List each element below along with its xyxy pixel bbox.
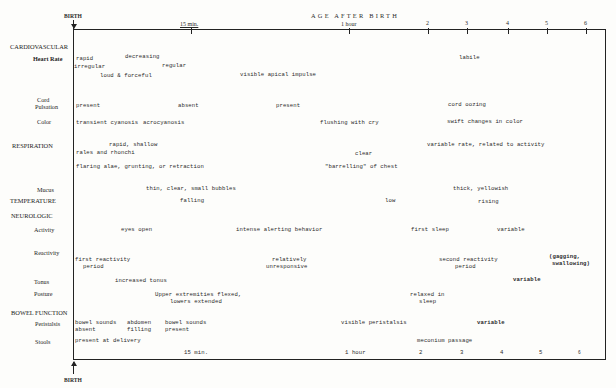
- entry: transient cyanosis: [76, 120, 138, 127]
- bottom-tick-label: 1 hour: [345, 350, 366, 357]
- entry: variable: [513, 277, 541, 284]
- tick-3: [467, 28, 468, 34]
- left-axis-line: [73, 29, 74, 360]
- tick-4: [508, 28, 509, 34]
- top-tick-label: 1 hour: [341, 21, 357, 27]
- row-peristalsis: Peristalsis: [35, 320, 60, 327]
- row-cord: Cord: [37, 96, 49, 103]
- row-heart-rate: Heart Rate: [33, 55, 62, 62]
- top-tick-label: 15 min.: [180, 21, 198, 27]
- section-temperature: TEMPERATURE: [10, 197, 56, 204]
- entry: loud & forceful: [100, 73, 152, 80]
- row-tonus: Tonus: [34, 278, 49, 285]
- entry: clear: [355, 151, 372, 158]
- tick-1hour: [349, 28, 350, 34]
- birth-label-bottom: BIRTH: [64, 377, 82, 383]
- entry: intense alerting behavior: [236, 227, 322, 234]
- entry: absent: [75, 327, 96, 334]
- entry: variable rate, related to activity: [427, 142, 545, 149]
- tick-15min: [191, 28, 192, 34]
- entry: flushing with cry: [320, 120, 379, 127]
- birth-label-top: BIRTH: [64, 13, 82, 19]
- entry: visible apical impulse: [240, 72, 316, 79]
- top-tick-label: 5: [545, 20, 548, 26]
- section-respiration: RESPIRATION: [12, 142, 53, 149]
- entry: low: [385, 198, 395, 205]
- top-axis-line: [73, 29, 606, 30]
- entry: variable: [497, 227, 525, 234]
- right-border-line: [605, 29, 606, 360]
- entry: irregular: [74, 64, 105, 71]
- entry: cord oozing: [448, 102, 486, 109]
- entry: present: [276, 103, 300, 110]
- tick-6: [586, 28, 587, 34]
- bottom-tick-label: 4: [500, 350, 503, 357]
- tick-2: [428, 28, 429, 34]
- arrow-up-icon: [71, 361, 77, 366]
- entry: visible peristalsis: [341, 320, 407, 327]
- entry: rales and rhonchi: [76, 150, 135, 157]
- entry: present at delivery: [75, 338, 141, 345]
- entry: "barrelling" of chest: [325, 164, 398, 171]
- row-color: Color: [37, 118, 51, 125]
- top-tick-label: 6: [584, 20, 587, 26]
- entry: rapid: [76, 56, 93, 63]
- entry: regular: [162, 63, 186, 70]
- entry: sleep: [419, 299, 436, 306]
- chart-title: AGE AFTER BIRTH: [311, 12, 399, 19]
- top-tick-label: 3: [465, 20, 468, 26]
- entry: meconium passage: [417, 338, 472, 345]
- entry: flaring alae, grunting, or retraction: [76, 164, 204, 171]
- entry: swift changes in color: [447, 119, 523, 126]
- entry: period: [455, 264, 476, 271]
- bottom-tick-label: 6: [578, 350, 581, 357]
- row-mucus: Mucus: [37, 186, 54, 193]
- entry: falling: [180, 198, 204, 205]
- entry: increased tonus: [115, 278, 167, 285]
- tick-5: [547, 28, 548, 34]
- section-neurologic: NEUROLOGIC: [11, 212, 53, 219]
- entry: period: [83, 264, 104, 271]
- entry: eyes open: [121, 227, 152, 234]
- row-stools: Stools: [35, 338, 50, 345]
- entry: first sleep: [411, 227, 449, 234]
- entry: swallowing): [552, 261, 590, 268]
- bottom-tick-label: 15 min.: [184, 350, 208, 357]
- entry: absent: [178, 103, 199, 110]
- row-pulsation: Pulsation: [35, 103, 58, 110]
- top-tick-label: 2: [426, 20, 429, 26]
- entry: thin, clear, small bubbles: [146, 186, 236, 193]
- entry: filling: [127, 327, 151, 334]
- entry: acrocyanosis: [143, 120, 184, 127]
- entry: variable: [477, 320, 505, 327]
- entry: thick, yellowish: [453, 186, 508, 193]
- entry: lowers extended: [170, 299, 222, 306]
- section-bowel-function: BOWEL FUNCTION: [11, 309, 67, 316]
- entry: labile: [459, 55, 480, 62]
- entry: unresponsive: [266, 264, 307, 271]
- bottom-tick-label: 5: [539, 350, 542, 357]
- bottom-tick-label: 3: [460, 350, 463, 357]
- top-tick-label: 4: [506, 20, 509, 26]
- row-posture: Posture: [34, 290, 53, 297]
- bottom-axis-line: [73, 359, 606, 360]
- entry: present: [165, 327, 189, 334]
- entry: rising: [478, 199, 499, 206]
- bottom-tick-label: 2: [419, 350, 422, 357]
- row-reactivity: Reactivity: [34, 249, 59, 256]
- entry: present: [76, 103, 100, 110]
- entry: decreasing: [125, 54, 160, 61]
- row-activity: Activity: [34, 226, 54, 233]
- section-cardiovascular: CARDIOVASCULAR: [10, 43, 68, 50]
- entry: rapid, shallow: [109, 142, 157, 149]
